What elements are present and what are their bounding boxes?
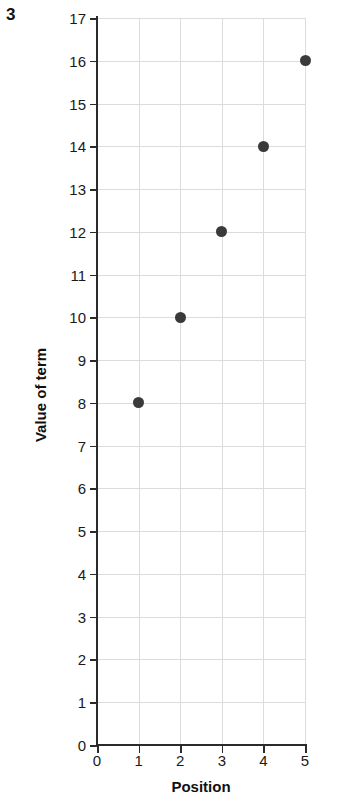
y-tick-label: 16 xyxy=(46,54,86,69)
y-tick-label: 5 xyxy=(46,524,86,539)
gridline-horizontal xyxy=(97,446,305,447)
gridline-horizontal xyxy=(97,146,305,147)
x-axis-line xyxy=(96,744,307,746)
y-tick-mark xyxy=(90,617,97,619)
x-tick-label: 2 xyxy=(165,753,195,768)
gridline-horizontal xyxy=(97,531,305,532)
y-tick-label: 6 xyxy=(46,481,86,496)
gridline-horizontal xyxy=(97,488,305,489)
y-tick-mark xyxy=(90,275,97,277)
data-point xyxy=(175,312,186,323)
y-tick-mark xyxy=(90,18,97,20)
gridline-horizontal xyxy=(97,104,305,105)
y-tick-mark xyxy=(90,446,97,448)
gridline-vertical xyxy=(222,18,223,745)
y-tick-mark xyxy=(90,403,97,405)
y-tick-label: 12 xyxy=(46,225,86,240)
x-tick-label: 0 xyxy=(82,753,112,768)
y-tick-label: 4 xyxy=(46,567,86,582)
x-tick-label: 3 xyxy=(207,753,237,768)
y-axis-title: Value of term xyxy=(32,348,49,442)
gridline-horizontal xyxy=(97,232,305,233)
gridline-horizontal xyxy=(97,702,305,703)
y-tick-label: 14 xyxy=(46,139,86,154)
y-tick-label: 8 xyxy=(46,396,86,411)
gridline-horizontal xyxy=(97,659,305,660)
y-tick-label: 3 xyxy=(46,610,86,625)
gridline-vertical xyxy=(305,18,306,745)
gridline-horizontal xyxy=(97,360,305,361)
y-tick-mark xyxy=(90,531,97,533)
y-tick-label: 17 xyxy=(46,11,86,26)
y-tick-mark xyxy=(90,189,97,191)
y-tick-mark xyxy=(90,61,97,63)
gridline-horizontal xyxy=(97,275,305,276)
gridline-horizontal xyxy=(97,189,305,190)
y-tick-label: 11 xyxy=(46,268,86,283)
y-tick-mark xyxy=(90,488,97,490)
y-tick-mark xyxy=(90,360,97,362)
plot-area xyxy=(97,18,305,745)
gridline-vertical xyxy=(180,18,181,745)
y-tick-mark xyxy=(90,659,97,661)
y-tick-label: 0 xyxy=(46,738,86,753)
gridline-horizontal xyxy=(97,18,305,19)
y-axis-line xyxy=(96,16,98,747)
y-tick-label: 13 xyxy=(46,182,86,197)
x-axis-title: Position xyxy=(97,778,305,795)
gridline-horizontal xyxy=(97,403,305,404)
gridline-vertical xyxy=(139,18,140,745)
x-tick-label: 4 xyxy=(248,753,278,768)
x-tick-label: 5 xyxy=(290,753,320,768)
scatter-plot: 01234567891011121314151617 012345 Value … xyxy=(0,0,339,804)
gridline-horizontal xyxy=(97,617,305,618)
y-tick-mark xyxy=(90,232,97,234)
gridline-vertical xyxy=(263,18,264,745)
gridline-horizontal xyxy=(97,317,305,318)
y-tick-mark xyxy=(90,702,97,704)
y-tick-mark xyxy=(90,317,97,319)
data-point xyxy=(258,141,269,152)
y-tick-label: 7 xyxy=(46,439,86,454)
y-tick-label: 15 xyxy=(46,97,86,112)
data-point xyxy=(300,55,311,66)
gridline-horizontal xyxy=(97,61,305,62)
y-tick-mark xyxy=(90,146,97,148)
y-tick-label: 2 xyxy=(46,652,86,667)
x-tick-label: 1 xyxy=(124,753,154,768)
y-tick-mark xyxy=(90,574,97,576)
y-tick-mark xyxy=(90,104,97,106)
gridline-horizontal xyxy=(97,574,305,575)
y-tick-label: 9 xyxy=(46,353,86,368)
y-tick-mark xyxy=(90,745,97,747)
y-tick-label: 10 xyxy=(46,310,86,325)
y-tick-label: 1 xyxy=(46,695,86,710)
